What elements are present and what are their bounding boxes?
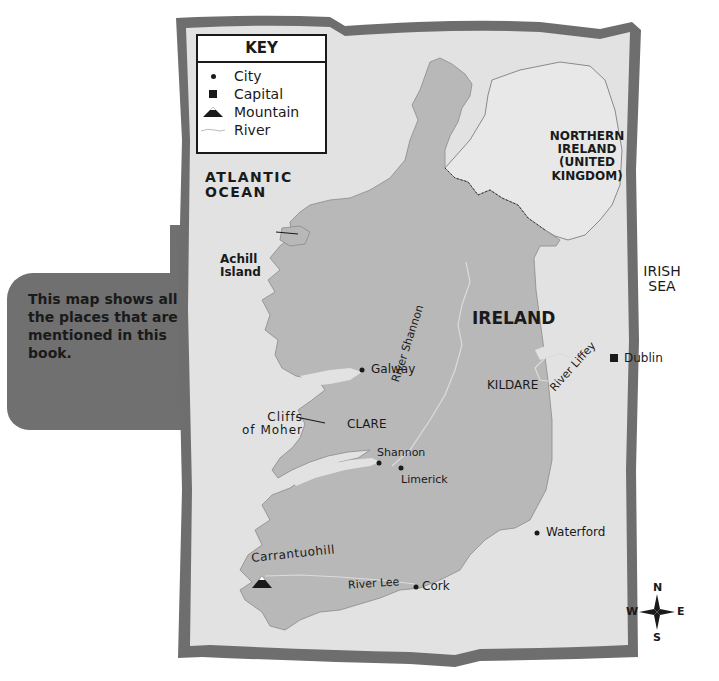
compass-w: W <box>626 606 638 618</box>
clare-label: CLARE <box>347 418 386 431</box>
irish-sea-label: IRISHSEA <box>638 264 686 295</box>
limerick-label: Limerick <box>401 474 448 486</box>
shannon-dot <box>377 461 382 466</box>
dublin-capital-square <box>610 354 618 362</box>
waterford-dot <box>535 531 540 536</box>
key-row-city: City <box>198 67 325 85</box>
key-row-capital: Capital <box>198 85 325 103</box>
callout-text: This map shows all the places that are m… <box>28 290 178 362</box>
river-line-icon <box>200 126 226 134</box>
cliffs-of-moher-label: Cliffsof Moher <box>242 411 303 437</box>
kildare-label: KILDARE <box>487 379 538 392</box>
key-label: City <box>234 68 261 84</box>
key-label: Capital <box>234 86 283 102</box>
square-icon <box>209 90 217 98</box>
achill-island-label: AchillIsland <box>220 253 261 279</box>
limerick-dot <box>399 466 404 471</box>
compass-s: S <box>653 632 661 644</box>
compass-rose <box>639 594 675 630</box>
waterford-label: Waterford <box>546 526 605 539</box>
cork-dot <box>414 585 419 590</box>
achill-island-land <box>280 226 310 246</box>
key-row-river: River <box>198 121 325 139</box>
cork-label: Cork <box>422 580 450 593</box>
northern-ireland-label: NORTHERNIRELAND(UNITEDKINGDOM) <box>542 130 632 183</box>
compass-n: N <box>653 582 662 594</box>
key-row-mountain: Mountain <box>198 103 325 121</box>
key-label: Mountain <box>234 104 299 120</box>
dot-icon <box>211 74 216 79</box>
key-label: River <box>234 122 270 138</box>
compass-e: E <box>677 606 685 618</box>
mountain-icon <box>202 106 224 118</box>
map-key: KEY City Capital Mountain River <box>196 34 327 154</box>
atlantic-ocean-label: ATLANTICOCEAN <box>205 170 293 201</box>
galway-dot <box>360 368 365 373</box>
key-title: KEY <box>198 36 325 63</box>
ireland-label: IRELAND <box>472 309 555 328</box>
dublin-label: Dublin <box>624 352 663 365</box>
shannon-label: Shannon <box>377 447 425 459</box>
